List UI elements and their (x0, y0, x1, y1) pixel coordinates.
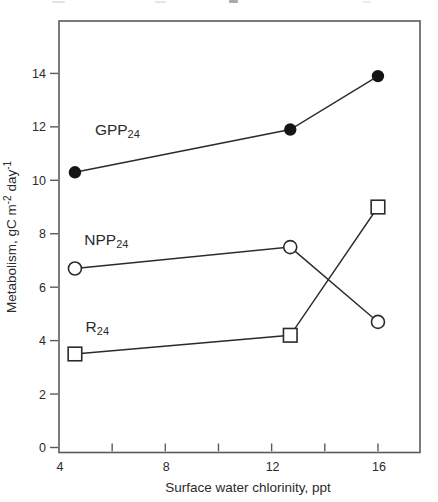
open-square-marker (371, 200, 385, 214)
scanned-figure-page: Surface water chlorinity, ppt 0246810121… (0, 0, 438, 502)
x-tick-label: 8 (163, 460, 170, 474)
filled-circle-marker (284, 123, 296, 135)
artifact-mark (155, 1, 166, 3)
series-label-gpp24: GPP24 (95, 121, 140, 141)
metabolism-chlorinity-chart: Surface water chlorinity, ppt 0246810121… (0, 0, 438, 502)
filled-circle-marker (69, 166, 81, 178)
x-tick-label: 4 (57, 460, 64, 474)
filled-circle-marker (372, 70, 384, 82)
y-tick-label: 12 (32, 120, 46, 134)
open-square-marker (283, 328, 297, 342)
y-tick-label: 8 (39, 227, 46, 241)
x-axis-label: Surface water chlorinity, ppt (165, 480, 331, 495)
y-tick-label: 4 (39, 334, 46, 348)
series-line-npp24 (75, 247, 378, 322)
y-tick-label: 6 (39, 281, 46, 295)
x-tick-label: 12 (266, 460, 280, 474)
y-tick-label: 2 (39, 388, 46, 402)
artifact-mark (229, 0, 238, 3)
y-axis-label: Metabolism, gC m-2 day-1 (2, 161, 19, 314)
open-square-marker (68, 347, 82, 361)
y-tick-label: 14 (32, 67, 46, 81)
x-tick-label: 16 (372, 460, 386, 474)
open-circle-marker (284, 241, 297, 254)
open-circle-marker (68, 262, 81, 275)
open-circle-marker (371, 315, 384, 328)
artifact-mark (52, 1, 65, 3)
y-tick-label: 0 (39, 441, 46, 455)
y-tick-label: 10 (32, 174, 46, 188)
chart-canvas: Surface water chlorinity, ppt 0246810121… (0, 0, 438, 502)
series-label-r24: R24 (86, 318, 109, 338)
artifact-mark (362, 1, 371, 3)
series-line-r24 (75, 207, 378, 354)
series-label-npp24: NPP24 (84, 231, 128, 251)
